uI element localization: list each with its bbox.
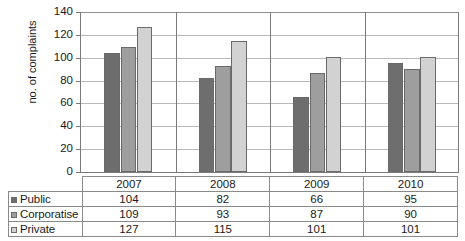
table-column-header-2007: 2007 <box>82 177 176 192</box>
table-cell-public-2007: 104 <box>82 192 176 207</box>
bar-corporatise-2010 <box>404 69 420 172</box>
table-cell-public-2009: 66 <box>270 192 364 207</box>
table-cell-corporatise-2009: 87 <box>270 207 364 222</box>
table-cell-private-2008: 115 <box>176 222 270 237</box>
table-cell-corporatise-2007: 109 <box>82 207 176 222</box>
table-cell-private-2009: 101 <box>270 222 364 237</box>
bar-public-2010 <box>388 63 404 172</box>
y-axis-tick <box>76 172 81 173</box>
bar-group-2007 <box>81 12 176 172</box>
y-axis-label: 20 <box>60 143 73 155</box>
legend-label: Public <box>20 193 51 205</box>
legend-entry-private: Private <box>9 222 83 237</box>
table-row: Corporatise109938790 <box>9 207 458 222</box>
legend-swatch-icon <box>11 212 17 218</box>
bar-public-2009 <box>293 97 309 172</box>
table-cell-private-2010: 101 <box>364 222 458 237</box>
bar-corporatise-2008 <box>215 66 231 172</box>
y-axis-label: 100 <box>54 52 73 64</box>
chart-figure: no. of complaints 020406080100120140 200… <box>0 0 465 241</box>
table-column-header-2010: 2010 <box>364 177 458 192</box>
table-row: Public104826695 <box>9 192 458 207</box>
legend-entry-public: Public <box>9 192 83 207</box>
y-axis-label: 40 <box>60 121 73 133</box>
y-axis-label: 140 <box>54 6 73 18</box>
table-cell-corporatise-2008: 93 <box>176 207 270 222</box>
bar-public-2007 <box>104 53 120 172</box>
bar-public-2008 <box>199 78 215 172</box>
data-table: 2007200820092010Public104826695Corporati… <box>8 176 458 237</box>
table-cell-public-2010: 95 <box>364 192 458 207</box>
table-cell-public-2008: 82 <box>176 192 270 207</box>
y-axis-label: 120 <box>54 29 73 41</box>
y-axis-title: no. of complaints <box>26 0 38 132</box>
bar-private-2007 <box>137 27 153 172</box>
y-axis-label: 80 <box>60 75 73 87</box>
bar-group-2008 <box>176 12 271 172</box>
table-cell-corporatise-2010: 90 <box>364 207 458 222</box>
bar-private-2008 <box>231 41 247 172</box>
table-header-row: 2007200820092010 <box>9 177 458 192</box>
bar-corporatise-2009 <box>310 73 326 172</box>
table-column-header-2008: 2008 <box>176 177 270 192</box>
legend-label: Corporatise <box>20 208 78 220</box>
legend-entry-corporatise: Corporatise <box>9 207 83 222</box>
bar-group-2010 <box>365 12 460 172</box>
bar-private-2010 <box>420 57 436 172</box>
bar-corporatise-2007 <box>121 47 137 172</box>
legend-swatch-icon <box>11 227 17 233</box>
bar-group-2009 <box>270 12 365 172</box>
legend-swatch-icon <box>11 197 17 203</box>
table-row: Private127115101101 <box>9 222 458 237</box>
legend-label: Private <box>20 223 55 235</box>
bar-private-2009 <box>326 57 342 172</box>
table-cell-private-2007: 127 <box>82 222 176 237</box>
table-column-header-2009: 2009 <box>270 177 364 192</box>
y-axis-label: 60 <box>60 98 73 110</box>
table-corner-cell <box>9 177 83 192</box>
plot-area: 020406080100120140 <box>80 12 459 173</box>
